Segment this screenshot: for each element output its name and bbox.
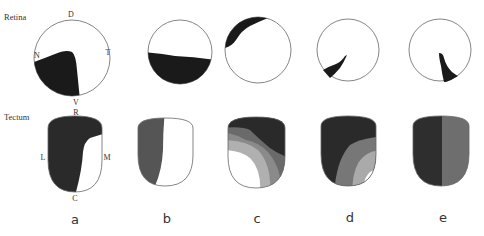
tectum-c	[220, 110, 290, 195]
panel-label-e: e	[439, 210, 447, 225]
panel-label-d: d	[346, 210, 354, 225]
tectum-caudal-label: C	[72, 194, 77, 203]
tectum-row-label: Tectum	[4, 112, 30, 122]
tectum-medial-label: M	[103, 153, 110, 162]
retina-nasal-label: N	[34, 51, 40, 60]
retina-e	[409, 19, 471, 82]
panel-label-c: c	[253, 211, 260, 226]
tectum-d	[315, 110, 385, 195]
panel-d: d	[315, 19, 385, 225]
retinotectal-projection-diagram: Retina Tectum D V N T R C L M a	[0, 0, 484, 236]
panel-c: c	[220, 10, 291, 226]
panel-b: b	[130, 20, 215, 226]
retina-dorsal-label: D	[68, 10, 74, 19]
tectum-e-medial-half	[442, 110, 477, 195]
tectum-a: R C L M	[40, 108, 111, 203]
panel-label-b: b	[163, 211, 171, 226]
panel-a: D V N T R C L M a	[30, 10, 111, 227]
panel-label-a: a	[71, 212, 79, 227]
tectum-e-lateral-half	[405, 110, 442, 195]
retina-row-label: Retina	[4, 12, 26, 22]
retina-ventral-label: V	[73, 98, 79, 107]
retina-temporal-label: T	[106, 48, 111, 57]
retina-d	[317, 19, 379, 81]
retina-a: D V N T	[30, 10, 111, 107]
retina-b	[140, 20, 215, 90]
tectum-lateral-label: L	[41, 153, 46, 162]
tectum-rostral-label: R	[73, 108, 79, 117]
tectum-e	[405, 110, 477, 195]
retina-c	[220, 10, 291, 83]
tectum-b	[130, 110, 193, 190]
panel-e: e	[405, 19, 477, 225]
